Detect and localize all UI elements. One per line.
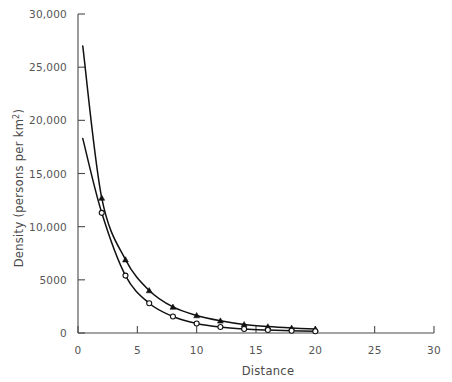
y-tick-label: 30,000 <box>29 8 67 20</box>
data-point-marker <box>242 326 247 331</box>
series-steep-curve <box>83 46 318 331</box>
y-axis-title-suffix: ) <box>12 109 26 114</box>
x-tick-label: 30 <box>427 344 441 356</box>
series-shallow-curve <box>83 138 318 333</box>
y-tick-label: 15,000 <box>29 168 67 180</box>
data-point-marker <box>147 301 152 306</box>
y-axis-title: Density (persons per km2) <box>12 109 26 268</box>
x-tick-label-group: 051015202530 <box>75 344 441 356</box>
y-tick-label: 20,000 <box>29 114 67 126</box>
y-axis-title-main: Density (persons per km <box>12 119 26 267</box>
data-point-marker <box>265 328 270 333</box>
data-point-marker <box>289 328 294 333</box>
curve-line <box>83 46 316 329</box>
y-tick-label: 10,000 <box>29 221 67 233</box>
data-point-marker <box>123 273 128 278</box>
data-point-marker <box>170 314 175 319</box>
curve-line <box>83 138 316 331</box>
data-point-marker <box>313 329 318 334</box>
data-point-marker <box>99 195 105 200</box>
y-tick-label-group: 0500010,00015,00020,00025,00030,000 <box>29 8 67 339</box>
data-point-marker <box>194 321 199 326</box>
data-point-marker <box>218 325 223 330</box>
data-series-group <box>83 46 318 334</box>
density-distance-chart: 0500010,00015,00020,00025,00030,000 0510… <box>0 0 452 382</box>
y-tick-label: 5000 <box>39 274 67 286</box>
data-point-marker <box>99 210 104 215</box>
x-tick-label: 20 <box>308 344 322 356</box>
y-tick-label: 25,000 <box>29 61 67 73</box>
x-axis-title: Distance <box>242 364 295 378</box>
x-tick-label: 15 <box>249 344 263 356</box>
x-tick-label: 5 <box>134 344 141 356</box>
chart-container: 0500010,00015,00020,00025,00030,000 0510… <box>0 0 452 382</box>
data-point-marker <box>123 257 129 262</box>
x-tick-label: 10 <box>190 344 204 356</box>
x-tick-label: 25 <box>368 344 382 356</box>
y-tick-label: 0 <box>60 327 67 339</box>
x-tick-label: 0 <box>75 344 82 356</box>
